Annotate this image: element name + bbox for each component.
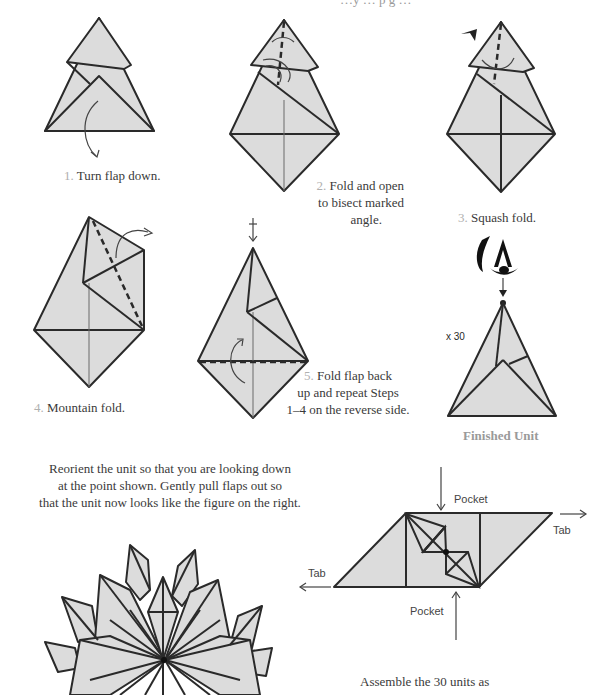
- pocket-bottom-arrow-icon: [452, 592, 460, 640]
- tab-left-arrow-icon: [300, 583, 331, 591]
- tab-right-label: Tab: [553, 524, 571, 536]
- pocket-top-arrow-icon: [437, 467, 445, 510]
- assembled-model-diagram: [0, 0, 300, 695]
- tab-right-arrow-icon: [560, 510, 586, 518]
- pocket-bottom-label: Pocket: [410, 605, 444, 617]
- tab-left-label: Tab: [308, 567, 326, 579]
- assemble-instructions: Assemble the 30 units as: [360, 673, 489, 690]
- pocket-top-label: Pocket: [454, 493, 488, 505]
